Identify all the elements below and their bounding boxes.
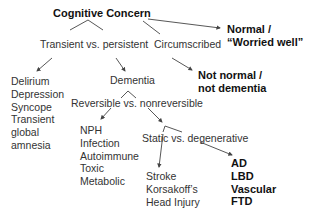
list-item: AD <box>231 157 276 170</box>
list-item: Head Injury <box>146 196 200 209</box>
normal-line2: “Worried well” <box>227 36 303 49</box>
list-item: Vascular <box>231 183 276 196</box>
list-item: FTD <box>231 195 276 208</box>
normal-node: Normal / “Worried well” <box>227 23 303 49</box>
list-item: Metabolic <box>80 175 139 188</box>
list-item: Korsakoff’s <box>146 183 200 196</box>
degenerative-causes-list: AD LBD Vascular FTD <box>231 157 276 208</box>
dementia-node: Dementia <box>110 74 155 87</box>
list-item: Transient <box>11 113 64 126</box>
list-item: Syncope <box>11 101 64 114</box>
list-item: Autoimmune <box>80 150 139 163</box>
not-normal-node: Not normal / not dementia <box>198 69 266 95</box>
transient-causes-list: Delirium Depression Syncope Transient gl… <box>11 75 64 152</box>
list-item: Depression <box>11 88 64 101</box>
root-node: Cognitive Concern <box>53 7 151 20</box>
static-causes-list: Stroke Korsakoff’s Head Injury <box>146 170 200 208</box>
root-split-lines <box>70 20 103 30</box>
not-normal-line1: Not normal / <box>198 69 266 82</box>
list-item: amnesia <box>11 139 64 152</box>
list-item: NPH <box>80 124 139 137</box>
list-item: LBD <box>231 170 276 183</box>
normal-line1: Normal / <box>227 23 303 36</box>
list-item: Delirium <box>11 75 64 88</box>
circumscribed-node: Circumscribed <box>154 38 221 51</box>
list-item: Stroke <box>146 170 200 183</box>
reversible-causes-list: NPH Infection Autoimmune Toxic Metabolic <box>80 124 139 188</box>
static-vs-degenerative-node: Static vs. degenerative <box>142 132 248 145</box>
list-item: Infection <box>80 137 139 150</box>
list-item: global <box>11 126 64 139</box>
transient-vs-persistent-node: Transient vs. persistent <box>40 38 148 51</box>
list-item: Toxic <box>80 162 139 175</box>
not-normal-line2: not dementia <box>198 82 266 95</box>
reversible-vs-nonreversible-node: Reversible vs. nonreversible <box>71 97 203 110</box>
